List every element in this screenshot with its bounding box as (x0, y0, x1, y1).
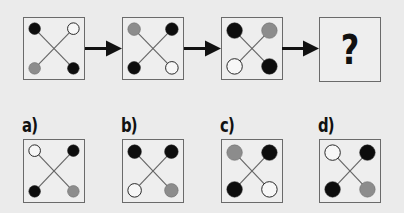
option-label-b: b) (121, 114, 137, 136)
black-circle-br (262, 59, 277, 74)
white-circle-br (262, 182, 277, 197)
white-circle-tl (29, 145, 41, 157)
x-pattern-figure (123, 18, 183, 79)
sequence-box-1 (23, 17, 85, 80)
white-circle-bl (128, 184, 142, 198)
x-pattern-figure (222, 140, 282, 202)
sequence-box-3 (221, 17, 283, 80)
black-circle-tl (128, 145, 142, 159)
gray-circle-br (360, 182, 375, 197)
x-pattern-figure (24, 18, 84, 79)
white-circle-bl (227, 59, 242, 74)
x-pattern-figure (320, 140, 380, 202)
x-pattern-figure (222, 18, 282, 79)
question-box: ? (319, 17, 381, 82)
black-circle-tr (166, 23, 179, 36)
option-label-c: c) (220, 114, 234, 136)
black-circle-bl (29, 186, 41, 198)
black-circle-tr (165, 145, 179, 159)
gray-circle-bl (29, 63, 41, 75)
option-b[interactable] (122, 139, 184, 203)
option-label-a: a) (22, 114, 37, 136)
arrow-right-icon (85, 40, 123, 58)
black-circle-bl (128, 62, 141, 75)
black-circle-tr (262, 145, 277, 160)
black-circle-tl (29, 23, 41, 35)
black-circle-tl (227, 23, 242, 38)
black-circle-bl (325, 182, 340, 197)
gray-circle-br (165, 184, 179, 198)
x-pattern-figure (24, 140, 84, 202)
black-circle-bl (227, 182, 242, 197)
option-d[interactable] (319, 139, 381, 203)
gray-circle-tr (262, 23, 277, 38)
black-circle-br (68, 63, 80, 75)
arrow-right-icon (184, 40, 222, 58)
white-circle-br (166, 62, 179, 75)
option-label-d: d) (318, 114, 334, 136)
black-circle-tr (68, 145, 80, 157)
question-mark: ? (326, 18, 374, 81)
gray-circle-tl (128, 23, 141, 36)
option-a[interactable] (23, 139, 85, 203)
arrow-right-icon (282, 40, 320, 58)
sequence-box-2 (122, 17, 184, 80)
gray-circle-br (68, 186, 80, 198)
white-circle-tr (68, 23, 80, 35)
black-circle-tr (360, 145, 375, 160)
option-c[interactable] (221, 139, 283, 203)
white-circle-tl (325, 145, 340, 160)
gray-circle-tl (227, 145, 242, 160)
x-pattern-figure (123, 140, 183, 202)
